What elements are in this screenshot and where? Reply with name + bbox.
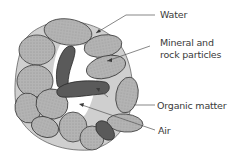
soil-diagram [0, 0, 229, 160]
label-air: Air [158, 125, 170, 136]
label-mineral-line2: rock particles [160, 49, 221, 60]
label-water: Water [160, 9, 187, 20]
label-mineral-line1: Mineral and [160, 37, 214, 48]
label-organic-matter: Organic matter [157, 100, 226, 111]
